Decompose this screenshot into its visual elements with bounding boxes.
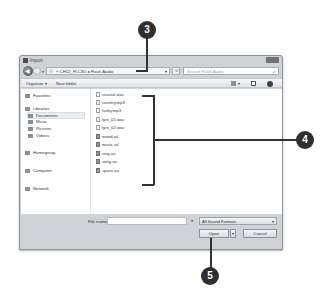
address-bar[interactable]: « CH12_FLCS5 ▸ Flash Audio ▾ <box>46 67 170 75</box>
chevron-down-icon[interactable]: ▾ <box>191 218 193 223</box>
nav-item-music[interactable]: Music <box>28 119 47 124</box>
forward-button[interactable] <box>33 67 41 75</box>
nav-item-videos[interactable]: Videos <box>28 133 49 138</box>
callout-line <box>210 238 212 268</box>
file-item[interactable]: space.au <box>96 168 119 173</box>
audio-file-icon <box>96 92 100 97</box>
computer-icon <box>25 169 30 173</box>
file-item[interactable]: country.mp3 <box>96 100 125 105</box>
nav-item-network[interactable]: Network <box>25 186 49 191</box>
file-name-input[interactable] <box>107 217 187 225</box>
refresh-button[interactable]: ↻ <box>172 67 180 75</box>
media-file-icon <box>96 134 100 139</box>
media-file-icon <box>96 159 100 164</box>
callout-3: 3 <box>138 21 156 39</box>
search-icon[interactable]: ⌕ <box>273 68 276 75</box>
search-input[interactable]: Search Flash Audio ⌕ <box>183 67 279 75</box>
back-arrow-icon: ◀ <box>25 67 30 75</box>
documents-icon <box>28 114 33 118</box>
library-icon <box>25 107 30 111</box>
pictures-icon <box>28 127 33 131</box>
close-button[interactable] <box>266 57 279 63</box>
organize-button[interactable]: Organize ▾ <box>26 81 47 86</box>
nav-item-documents[interactable]: Documents <box>27 112 85 119</box>
app-icon <box>23 58 28 63</box>
new-folder-button[interactable]: New folder <box>56 81 77 86</box>
network-icon <box>25 187 30 191</box>
callout-5: 5 <box>201 267 219 285</box>
preview-pane-icon[interactable] <box>251 81 256 86</box>
videos-icon <box>28 134 33 138</box>
folder-icon <box>49 69 53 73</box>
nav-item-computer[interactable]: Computer <box>25 168 52 173</box>
help-icon[interactable] <box>267 81 273 87</box>
views-icon[interactable] <box>231 81 236 86</box>
nav-item-pictures[interactable]: Pictures <box>28 126 52 131</box>
chevron-down-icon: ▾ <box>272 219 274 224</box>
media-file-icon <box>96 151 100 156</box>
file-list: coastal.wav country.mp3 funky.mp3 lyre_0… <box>96 89 276 214</box>
homegroup-icon <box>25 151 30 155</box>
callout-line <box>146 38 148 71</box>
audio-file-icon <box>96 100 100 105</box>
command-toolbar: Organize ▾ New folder ▾ <box>21 78 282 88</box>
file-item[interactable]: lyre_02.wav <box>96 125 124 130</box>
navigation-bar: ◀ ▾ « CH12_FLCS5 ▸ Flash Audio ▾ ↻ Searc… <box>22 66 280 77</box>
audio-file-icon <box>96 108 100 113</box>
file-type-value: All Sound Formats <box>202 219 236 224</box>
back-button[interactable]: ◀ <box>23 66 33 76</box>
file-type-select[interactable]: All Sound Formats ▾ <box>199 217 277 225</box>
callout-line <box>136 70 148 72</box>
audio-file-icon <box>96 125 100 130</box>
music-icon <box>28 120 33 124</box>
navigation-pane: Favorites Libraries Documents Music Pict… <box>21 89 91 214</box>
dialog-footer: File name: ▾ All Sound Formats ▾ Open ▾ … <box>21 214 282 249</box>
file-item[interactable]: mood.aif <box>96 134 118 139</box>
file-item[interactable]: funky.mp3 <box>96 108 121 113</box>
window-title: Import <box>30 58 43 63</box>
bracket-bottom <box>142 184 154 186</box>
file-item[interactable]: lyre_01.wav <box>96 117 124 122</box>
file-item[interactable]: coastal.wav <box>96 92 124 97</box>
file-item[interactable]: song.au <box>96 159 117 164</box>
recent-pages-dropdown[interactable]: ▾ <box>42 69 44 74</box>
callout-line <box>153 139 298 141</box>
title-bar: Import <box>20 56 282 66</box>
nav-item-favorites[interactable]: Favorites <box>25 93 51 98</box>
content-area: Favorites Libraries Documents Music Pict… <box>21 89 282 214</box>
cancel-button[interactable]: Cancel <box>243 229 277 238</box>
media-file-icon <box>96 168 100 173</box>
callout-4: 4 <box>296 131 314 149</box>
nav-item-homegroup[interactable]: Homegroup <box>25 150 55 155</box>
star-icon <box>25 94 30 98</box>
chevron-down-icon[interactable]: ▾ <box>165 69 167 74</box>
media-file-icon <box>96 142 100 147</box>
file-name-label: File name: <box>88 219 108 224</box>
import-dialog: Import ◀ ▾ « CH12_FLCS5 ▸ Flash Audio ▾ … <box>19 55 283 250</box>
open-button[interactable]: Open <box>199 229 229 238</box>
file-item[interactable]: music.aif <box>96 142 119 147</box>
nav-item-libraries[interactable]: Libraries <box>25 106 49 111</box>
open-options-dropdown[interactable]: ▾ <box>230 229 236 238</box>
audio-file-icon <box>96 117 100 122</box>
address-path[interactable]: « CH12_FLCS5 ▸ Flash Audio <box>56 69 113 74</box>
chevron-down-icon[interactable]: ▾ <box>238 81 240 86</box>
file-item[interactable]: sing.au <box>96 151 116 156</box>
search-placeholder: Search Flash Audio <box>187 69 223 74</box>
